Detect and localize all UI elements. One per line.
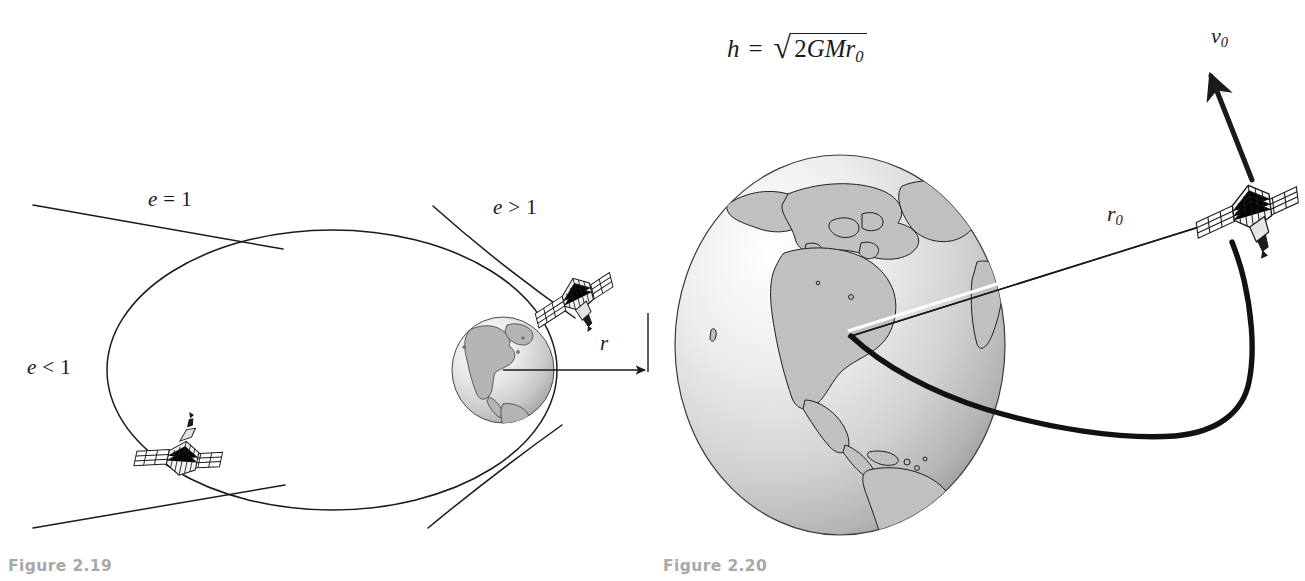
- earth-globe: [675, 155, 1005, 581]
- satellite-upper-right: [529, 269, 622, 343]
- gravitational-constant-symbol: G: [807, 35, 825, 62]
- parabola-upper-branch: [33, 205, 283, 249]
- mass-symbol: M: [825, 35, 846, 62]
- figure-2-20-panel: h=√2GMr0 r0 v0 Figure 2.20: [655, 0, 1305, 581]
- velocity-subscript: 0: [1221, 34, 1228, 50]
- radicand: 2GMr0: [791, 33, 866, 65]
- hyperbola-lower-branch: [428, 425, 562, 528]
- eccentricity-label-ellipse: e<1: [27, 357, 72, 378]
- figure-2-19-graphic: [0, 0, 655, 581]
- eccentricity-value: 1: [181, 187, 193, 211]
- figure-2-19-panel: e=1 e>1 e<1 r Figure 2.19: [0, 0, 655, 581]
- escape-speed-equation: h=√2GMr0: [727, 30, 867, 65]
- eccentricity-symbol: e: [493, 195, 503, 219]
- eccentricity-value: 1: [60, 355, 72, 379]
- initial-velocity-label: v0: [1211, 25, 1228, 50]
- figure-2-19-caption: Figure 2.19: [8, 557, 112, 575]
- velocity-vector-arrow: [1211, 76, 1252, 180]
- equation-operator: =: [749, 35, 763, 62]
- eccentricity-label-hyperbola: e>1: [493, 197, 538, 218]
- radius-subscript: 0: [1116, 212, 1123, 228]
- relation-symbol: =: [163, 187, 176, 211]
- radical-sign: √: [774, 29, 792, 65]
- initial-radius-label: r0: [1107, 203, 1123, 228]
- radius-symbol: r: [846, 35, 856, 62]
- equation-lhs: h: [727, 35, 740, 62]
- radius-symbol: r: [1107, 201, 1116, 226]
- earth-globe: [452, 317, 554, 448]
- velocity-symbol: v: [1211, 23, 1221, 48]
- hyperbola-upper-branch: [433, 206, 575, 318]
- satellite: [1193, 180, 1305, 267]
- eccentricity-label-parabola: e=1: [148, 189, 193, 210]
- relation-symbol: >: [508, 195, 521, 219]
- radius-symbol: r: [600, 331, 608, 355]
- figure-2-20-caption: Figure 2.20: [663, 557, 767, 575]
- figure-2-20-graphic: [655, 0, 1305, 581]
- satellite-lower-left: [134, 403, 229, 483]
- radius-label: r: [600, 333, 608, 354]
- radicand-coefficient: 2: [794, 35, 807, 62]
- parabola-lower-branch: [33, 485, 285, 528]
- radius-subscript: 0: [855, 47, 863, 66]
- eccentricity-value: 1: [526, 195, 538, 219]
- relation-symbol: <: [42, 355, 55, 379]
- eccentricity-symbol: e: [148, 187, 158, 211]
- square-root-group: √2GMr0: [772, 30, 867, 65]
- eccentricity-symbol: e: [27, 355, 37, 379]
